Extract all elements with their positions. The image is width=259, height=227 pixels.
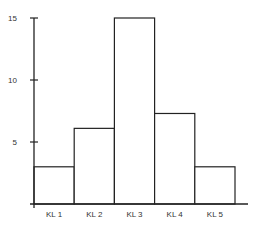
y-tick-label: 15 <box>8 14 17 23</box>
bars <box>34 18 235 204</box>
bar <box>74 128 114 204</box>
bar <box>155 113 195 204</box>
x-tick-label: KL 5 <box>207 210 224 219</box>
x-tick-label: KL 2 <box>86 210 103 219</box>
bar <box>34 167 74 204</box>
y-tick-label: 5 <box>13 138 18 147</box>
x-tick-label: KL 4 <box>167 210 184 219</box>
y-tick-label: 10 <box>8 76 17 85</box>
bar <box>114 18 154 204</box>
x-tick-label: KL 3 <box>126 210 143 219</box>
x-axis-labels: KL 1KL 2KL 3KL 4KL 5 <box>46 210 224 219</box>
bar <box>195 167 235 204</box>
x-tick-label: KL 1 <box>46 210 63 219</box>
bar-chart: 51015 KL 1KL 2KL 3KL 4KL 5 <box>0 0 259 227</box>
